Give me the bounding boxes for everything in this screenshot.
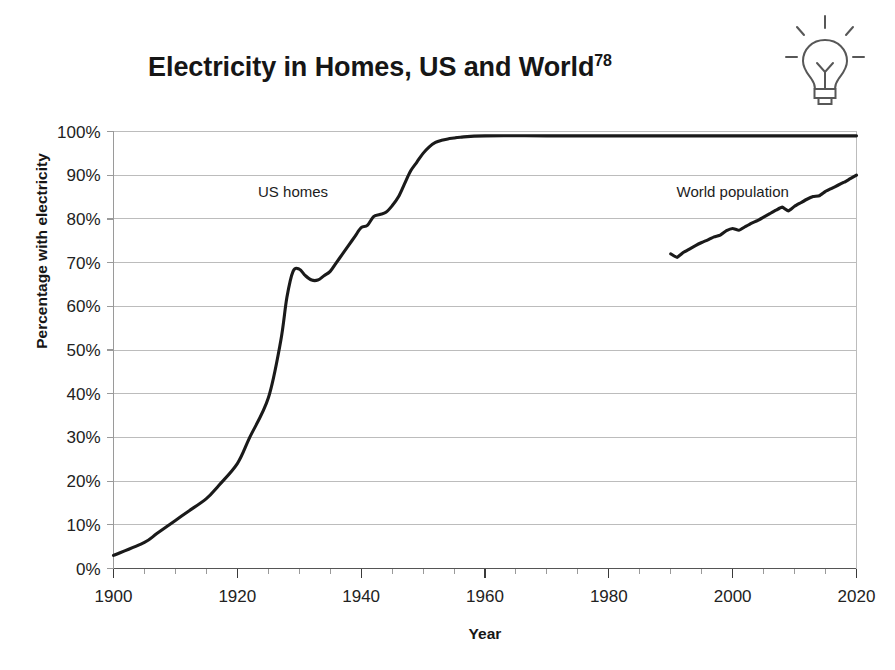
svg-text:2000: 2000 xyxy=(714,587,752,606)
svg-text:50%: 50% xyxy=(66,341,100,360)
svg-text:0%: 0% xyxy=(76,560,101,579)
svg-text:60%: 60% xyxy=(66,297,100,316)
svg-text:1980: 1980 xyxy=(590,587,628,606)
svg-text:1900: 1900 xyxy=(95,587,133,606)
series-label-world-population: World population xyxy=(677,183,789,200)
svg-text:1920: 1920 xyxy=(218,587,256,606)
chart-figure: Electricity in Homes, US and World78 Per… xyxy=(0,0,895,670)
svg-text:2020: 2020 xyxy=(838,587,876,606)
svg-text:20%: 20% xyxy=(66,472,100,491)
svg-text:40%: 40% xyxy=(66,385,100,404)
plot-area: 0%10%20%30%40%50%60%70%80%90%100% 190019… xyxy=(0,0,895,670)
series-label-us-homes: US homes xyxy=(258,183,328,200)
svg-text:10%: 10% xyxy=(66,516,100,535)
svg-text:30%: 30% xyxy=(66,428,100,447)
svg-text:1940: 1940 xyxy=(342,587,380,606)
series-labels: US homesWorld population xyxy=(258,183,789,200)
svg-text:1960: 1960 xyxy=(466,587,504,606)
svg-text:90%: 90% xyxy=(66,166,100,185)
y-axis-ticks: 0%10%20%30%40%50%60%70%80%90%100% xyxy=(57,123,113,579)
svg-text:70%: 70% xyxy=(66,254,100,273)
svg-text:80%: 80% xyxy=(66,210,100,229)
x-axis-ticks: 1900192019401960198020002020 xyxy=(95,569,876,606)
svg-text:100%: 100% xyxy=(57,123,100,142)
